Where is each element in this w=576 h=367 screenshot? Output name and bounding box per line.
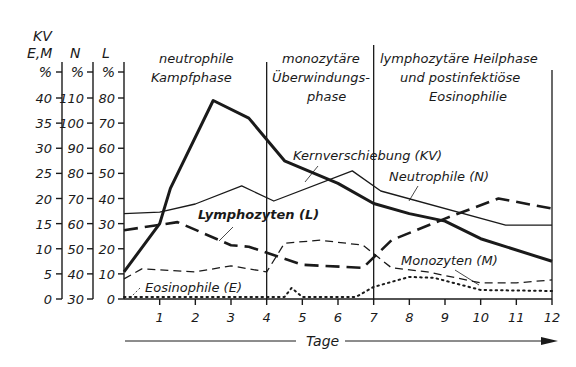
y-tick-label: 50 xyxy=(67,242,84,257)
series-kernverschiebung-kv xyxy=(124,101,552,272)
label-eosinophile: Eosinophile (E) xyxy=(145,280,242,295)
y-tick-label: 20 xyxy=(98,242,115,257)
phase2-label-line3: phase xyxy=(306,89,346,104)
label-neutrophile: Neutrophile (N) xyxy=(389,169,489,184)
y-axis-unit-l: % xyxy=(102,64,115,80)
x-tick-label: 3 xyxy=(227,310,235,325)
phase1-label-line1: neutrophile xyxy=(159,51,234,66)
y-tick-label: 30 xyxy=(67,292,84,307)
y-tick-label: 30 xyxy=(98,217,115,232)
y-tick-label: 35 xyxy=(35,116,52,131)
axis-header-l: L xyxy=(102,45,110,61)
x-tick-labels: 123456789101112 xyxy=(156,310,561,325)
x-tick-label: 10 xyxy=(472,310,489,325)
y-axis-unit-kvem: % xyxy=(39,64,52,80)
x-tick-label: 6 xyxy=(334,310,342,325)
y-tick-label: 30 xyxy=(35,141,52,156)
label-monozyten: Monozyten (M) xyxy=(401,253,498,268)
leader-m xyxy=(455,270,479,285)
axis-header-kv: KV xyxy=(33,28,53,44)
y-tick-label: 80 xyxy=(67,166,84,181)
label-kernverschiebung: Kernverschiebung (KV) xyxy=(293,148,442,163)
y-tick-label: 40 xyxy=(35,91,52,106)
y-tick-label: 110 xyxy=(59,91,84,106)
y-tick-label: 60 xyxy=(98,141,115,156)
x-tick-label: 5 xyxy=(298,310,306,325)
y-tick-labels: %0510152025303540%30405060708090100110%0… xyxy=(35,64,115,307)
leukocyte-curve-chart: %0510152025303540%30405060708090100110%0… xyxy=(0,0,576,367)
x-axis xyxy=(124,299,552,305)
phase1-label-line2: Kampfphase xyxy=(151,70,232,85)
x-tick-label: 4 xyxy=(263,310,271,325)
x-tick-label: 1 xyxy=(156,310,164,325)
phase3-label-line1: lymphozytäre Heilphase xyxy=(380,51,538,66)
x-axis-title: Tage xyxy=(306,333,339,349)
leader-n xyxy=(409,186,418,201)
y-tick-label: 60 xyxy=(67,217,84,232)
x-tick-label: 2 xyxy=(191,310,199,325)
phase2-label-line1: monozytäre xyxy=(282,51,360,66)
y-tick-label: 70 xyxy=(67,192,84,207)
leader-l xyxy=(219,227,233,241)
y-tick-label: 20 xyxy=(35,192,52,207)
y-tick-label: 90 xyxy=(67,141,84,156)
axis-header-em: E,M xyxy=(27,45,52,61)
y-tick-label: 15 xyxy=(35,217,52,232)
y-tick-label: 40 xyxy=(98,192,115,207)
phase3-label-line3: Eosinophilie xyxy=(429,89,507,104)
y-tick-label: 10 xyxy=(35,242,52,257)
y-tick-label: 10 xyxy=(98,267,115,282)
y-tick-label: 40 xyxy=(67,267,84,282)
x-tick-label: 11 xyxy=(508,310,525,325)
x-tick-label: 12 xyxy=(544,310,561,325)
y-tick-label: 5 xyxy=(44,267,52,282)
x-tick-label: 9 xyxy=(441,310,449,325)
leader-e xyxy=(132,288,140,296)
phase2-label-line2: Überwindungs- xyxy=(272,69,370,85)
y-tick-label: 80 xyxy=(98,91,115,106)
label-lymphozyten: Lymphozyten (L) xyxy=(198,207,319,222)
arrow-head-icon xyxy=(541,337,558,345)
y-tick-label: 0 xyxy=(107,292,115,307)
y-axis-unit-n: % xyxy=(71,64,84,80)
phase3-label-line2: und postinfektiöse xyxy=(400,70,520,85)
y-tick-label: 0 xyxy=(44,292,52,307)
y-tick-label: 50 xyxy=(98,166,115,181)
y-tick-label: 70 xyxy=(98,116,115,131)
x-tick-label: 7 xyxy=(370,310,379,325)
x-tick-label: 8 xyxy=(405,310,413,325)
y-tick-label: 100 xyxy=(59,116,84,131)
axis-header-n: N xyxy=(70,45,81,61)
y-tick-label: 25 xyxy=(35,166,52,181)
